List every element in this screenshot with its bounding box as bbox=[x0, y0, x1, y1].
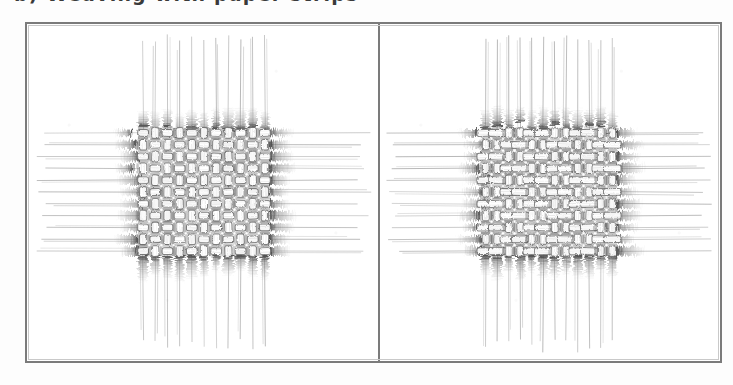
figure-frame bbox=[25, 22, 722, 363]
figure-page: b) Weaving with paper strips bbox=[0, 0, 733, 385]
left-weave-panel bbox=[27, 24, 378, 361]
woven-block bbox=[136, 126, 271, 257]
caption-strip: b) Weaving with paper strips bbox=[0, 0, 733, 16]
right-weave-panel bbox=[380, 24, 720, 361]
woven-block bbox=[477, 126, 621, 257]
rib-weave-diagram bbox=[380, 24, 720, 361]
caption-text: b) Weaving with paper strips bbox=[14, 0, 359, 5]
plain-weave-diagram bbox=[27, 24, 378, 361]
fringe-bottom bbox=[481, 255, 616, 281]
fringe-right bbox=[269, 130, 297, 256]
